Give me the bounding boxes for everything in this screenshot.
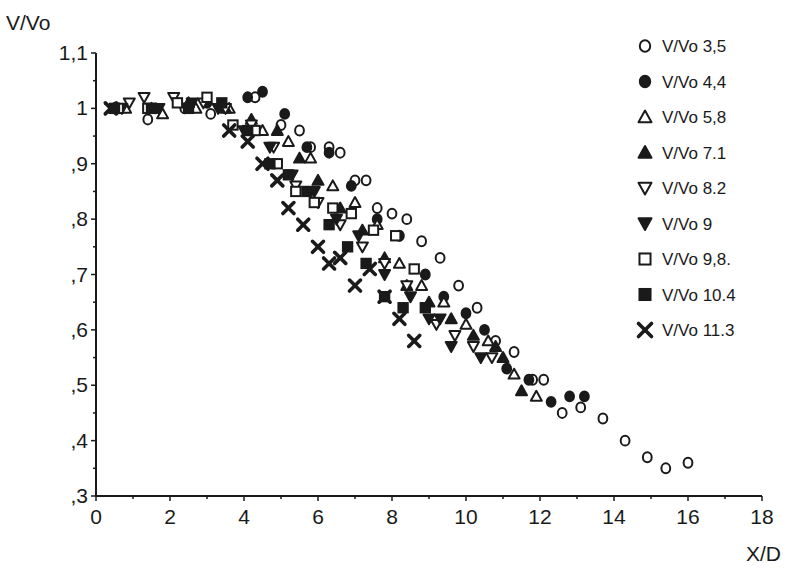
square-filled-marker [324,220,333,229]
x-tick-label: 0 [90,505,102,528]
triangle-up-open-marker [639,111,652,123]
square-open-marker [328,203,337,212]
circle-filled-marker [303,142,312,152]
square-open-marker [310,198,319,207]
triangle-down-filled-marker [379,270,390,280]
square-filled-marker [398,303,407,312]
circle-open-marker [206,109,215,119]
circle-open-marker [558,408,567,418]
square-open-marker [291,187,300,196]
circle-filled-marker [280,109,289,119]
y-tick-label: ,5 [70,373,88,396]
triangle-up-filled-marker [498,352,509,362]
triangle-up-open-marker [531,391,542,401]
triangle-up-open-marker [283,136,294,146]
triangle-up-open-marker [416,280,427,290]
legend-item: V/Vo 11.3 [639,321,735,340]
circle-open-marker [576,402,585,412]
square-filled-marker [147,104,156,113]
triangle-up-filled-marker [516,385,527,395]
triangle-down-open-marker [379,259,390,269]
circle-open-marker [643,452,652,462]
x-tick-label: 8 [386,505,398,528]
circle-filled-marker [502,364,511,374]
legend-label: V/Vo 3,5 [662,37,726,56]
y-tick-label: ,4 [70,429,88,452]
circle-filled-marker [325,148,334,158]
x-tick-label: 14 [602,505,626,528]
triangle-up-filled-marker [294,153,305,163]
x-cross-marker [283,203,294,214]
y-tick-label: ,8 [70,207,88,230]
triangle-down-open-marker [468,342,479,352]
series-v-vo-9 [116,98,486,363]
square-open-marker [391,231,400,240]
x-tick-label: 18 [750,505,773,528]
circle-open-marker [640,40,650,52]
x-tick-label: 10 [454,505,477,528]
x-cross-marker [394,313,405,324]
circle-filled-marker [547,397,556,407]
triangle-up-filled-marker [639,146,652,158]
triangle-down-open-marker [449,331,460,341]
triangle-down-filled-marker [446,342,457,352]
legend-label: V/Vo 4,4 [662,73,726,92]
circle-filled-marker [525,375,534,385]
circle-open-marker [417,236,426,246]
legend: V/Vo 3,5V/Vo 4,4V/Vo 5,8V/Vo 7.1V/Vo 8.2… [639,37,736,340]
triangle-up-open-marker [461,319,472,329]
circle-open-marker [510,347,519,357]
x-cross-marker [409,335,420,346]
square-open-marker [202,93,211,102]
legend-label: V/Vo 8.2 [662,179,726,198]
circle-open-marker [362,175,371,185]
y-tick-label: ,6 [70,318,88,341]
triangle-down-open-marker [639,183,652,195]
triangle-up-open-marker [350,197,361,207]
y-tick-label: 1 [76,96,88,119]
legend-label: V/Vo 9 [662,215,712,234]
circle-open-marker [661,463,670,473]
circle-open-marker [143,115,152,125]
legend-label: V/Vo 9,8. [662,250,731,269]
y-tick-label: ,7 [70,263,88,286]
triangle-up-filled-marker [446,313,457,323]
circle-filled-marker [480,325,489,335]
y-tick-label: ,3 [70,484,88,507]
legend-label: V/Vo 7.1 [662,144,726,163]
circle-open-marker [473,303,482,313]
triangle-up-open-marker [327,180,338,190]
circle-open-marker [436,253,445,263]
circle-open-marker [295,126,304,136]
circle-filled-marker [462,308,471,318]
x-cross-marker [242,136,253,147]
circle-open-marker [539,375,548,385]
x-tick-label: 16 [676,505,699,528]
circle-filled-marker [565,391,574,401]
triangle-down-filled-marker [353,231,364,241]
x-tick-label: 2 [164,505,176,528]
legend-item: V/Vo 9,8. [639,250,731,269]
triangle-down-filled-marker [475,353,486,363]
x-tick-label: 6 [312,505,324,528]
legend-item: V/Vo 10.4 [639,286,735,305]
circle-filled-marker [347,181,356,191]
x-cross-marker [639,324,652,337]
circle-open-marker [373,203,382,213]
square-open-marker [369,226,378,235]
triangle-up-filled-marker [313,175,324,185]
x-tick-label: 4 [238,505,250,528]
legend-item: V/Vo 3,5 [640,37,726,56]
legend-item: V/Vo 9 [639,215,713,234]
legend-label: V/Vo 5,8 [662,108,726,127]
circle-filled-marker [640,76,650,88]
square-filled-marker [421,303,430,312]
circle-open-marker [621,436,630,446]
circle-open-marker [599,414,608,424]
triangle-down-open-marker [486,353,497,363]
legend-label: V/Vo 10.4 [662,286,736,305]
triangle-down-filled-marker [405,292,416,302]
triangle-up-filled-marker [468,330,479,340]
data-points [105,87,692,473]
circle-filled-marker [243,92,252,102]
